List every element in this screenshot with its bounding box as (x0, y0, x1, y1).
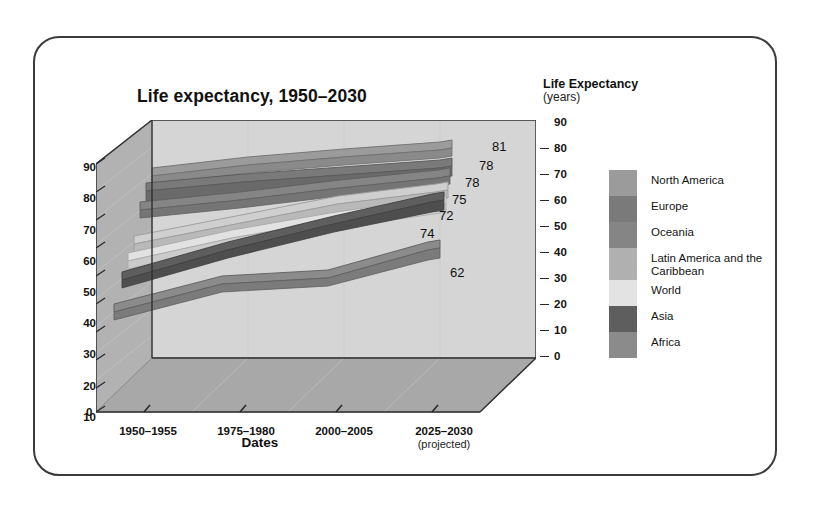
legend-swatch-icon (609, 196, 637, 222)
left-axis-tick-label: 90 (83, 161, 96, 173)
right-axis-tick-label: 0 (554, 350, 560, 362)
legend-swatch-icon (609, 306, 637, 332)
left-axis-tick-label: 80 (83, 192, 96, 204)
right-axis-tick (540, 330, 549, 331)
right-axis-tick-label: 10 (554, 324, 567, 336)
left-axis-tick-label: 20 (83, 380, 96, 392)
legend-item-world[interactable]: World (609, 280, 769, 306)
legend-swatch-icon (609, 170, 637, 196)
left-axis-tick-label: 30 (83, 348, 96, 360)
x-axis-title: Dates (242, 435, 279, 450)
legend-item-oceania[interactable]: Oceania (609, 222, 769, 248)
legend-swatch-icon (609, 332, 637, 358)
right-axis-tick (540, 278, 549, 279)
legend-item-africa[interactable]: Africa (609, 332, 769, 358)
left-axis-tick-label: 70 (83, 224, 96, 236)
legend-item-asia[interactable]: Asia (609, 306, 769, 332)
legend-item-north-america[interactable]: North America (609, 170, 769, 196)
right-value-axis: 90 80 70 60 50 40 30 20 10 0 (540, 110, 600, 360)
x-label-2025-2030: 2025–2030 (projected) (415, 424, 473, 452)
right-axis-tick-label: 60 (554, 194, 567, 206)
x-axis-labels: 1950–1955 1975–1980 2000–2005 2025–2030 … (96, 418, 546, 458)
right-axis-tick (540, 148, 549, 149)
right-axis-tick (540, 200, 549, 201)
chart-page: Life expectancy, 1950–2030 90 80 70 60 5… (0, 0, 816, 519)
right-axis-tick-label: 70 (554, 168, 567, 180)
x-label-2025-2030-main: 2025–2030 (415, 425, 473, 437)
x-label-projected: (projected) (415, 438, 473, 452)
legend-item-latin-america[interactable]: Latin America and the Caribbean (609, 248, 769, 280)
chart-title: Life expectancy, 1950–2030 (137, 86, 367, 107)
left-axis-tick-label: 60 (83, 255, 96, 267)
legend-swatch-icon (609, 280, 637, 306)
right-axis-tick-label: 30 (554, 272, 567, 284)
right-axis-tick-label: 40 (554, 246, 567, 258)
legend-label: Africa (651, 336, 680, 349)
right-axis-tick-label: 90 (554, 116, 567, 128)
legend-label: Latin America and the Caribbean (651, 252, 763, 278)
legend-label: Asia (651, 310, 673, 323)
legend-item-europe[interactable]: Europe (609, 196, 769, 222)
legend-swatch-icon (609, 222, 637, 248)
right-axis-tick (540, 174, 549, 175)
right-axis-units: (years) (543, 91, 638, 105)
x-label-1950-1955: 1950–1955 (119, 424, 177, 438)
right-axis-tick-label: 20 (554, 298, 567, 310)
right-axis-tick-label: 80 (554, 142, 567, 154)
right-axis-title: Life Expectancy (years) (543, 77, 638, 105)
right-axis-tick (540, 304, 549, 305)
legend-label: Europe (651, 200, 688, 213)
right-axis-tick (540, 356, 549, 357)
legend: North America Europe Oceania Latin Ameri… (609, 170, 769, 358)
legend-label: Oceania (651, 226, 694, 239)
x-label-2000-2005: 2000–2005 (315, 424, 373, 438)
left-axis-tick-label: 40 (83, 317, 96, 329)
right-axis-title-text: Life Expectancy (543, 77, 638, 91)
left-axis-tick-label: 50 (83, 286, 96, 298)
legend-label: North America (651, 174, 724, 187)
plot-area-3d (96, 120, 536, 420)
right-axis-tick (540, 226, 549, 227)
right-axis-tick (540, 252, 549, 253)
legend-label: World (651, 284, 681, 297)
left-axis-tick-label-zero: 0 (86, 406, 92, 418)
legend-swatch-icon (609, 248, 637, 280)
right-axis-tick-label: 50 (554, 220, 567, 232)
